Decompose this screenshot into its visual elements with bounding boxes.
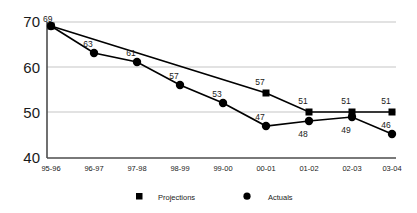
actuals-marker-98-99 [176,81,184,89]
data-label-actuals-98-99: 57 [169,71,179,81]
actuals-marker-02-03 [348,113,356,121]
projections-marker-01-02 [306,109,313,116]
x-tick-label-95-96: 95-96 [41,164,60,173]
actuals-marker-96-97 [90,49,98,57]
x-tick-label-97-98: 97-98 [127,164,146,173]
x-tick-label-96-97: 96-97 [84,164,103,173]
y-tick-label-60: 60 [23,59,40,76]
x-tick-label-03-04: 03-04 [382,164,401,173]
data-labels: 69 63 61 57 53 47 48 49 46 57 51 51 51 [43,14,391,139]
y-tick-label-70: 70 [23,13,40,30]
chart-legend: Projections Actuals [136,193,293,202]
actuals-marker-97-98 [133,58,141,66]
data-label-actuals-02-03: 49 [341,125,351,135]
legend-projections-square-icon [136,193,143,200]
data-label-actuals-00-01: 47 [255,112,265,122]
x-tick-label-99-00: 99-00 [213,164,232,173]
data-label-actuals-03-04: 46 [381,120,391,130]
data-label-projections-02-03: 51 [341,96,351,106]
data-label-start-69: 69 [43,14,53,24]
data-label-projections-03-04: 51 [381,96,391,106]
data-label-projections-00-01: 57 [255,77,265,87]
actuals-marker-99-00 [219,99,227,107]
data-label-actuals-01-02: 48 [298,129,308,139]
x-tick-label-01-02: 01-02 [299,164,318,173]
y-tick-label-50: 50 [23,104,40,121]
chart-canvas: 70 60 50 40 95-96 96-97 97-98 98-99 99-0… [0,0,417,213]
y-tick-label-40: 40 [23,149,40,166]
x-tick-label-02-03: 02-03 [342,164,361,173]
actuals-marker-01-02 [305,117,313,125]
actuals-marker-03-04 [388,130,396,138]
projections-marker-03-04 [389,109,396,116]
data-label-actuals-99-00: 53 [212,89,222,99]
data-label-projections-01-02: 51 [298,96,308,106]
legend-actuals-circle-icon [243,193,250,200]
x-tick-label-00-01: 00-01 [256,164,275,173]
legend-projections-label: Projections [158,193,195,202]
data-label-actuals-96-97: 63 [83,39,93,49]
legend-actuals-label: Actuals [268,193,293,202]
projections-marker-00-01 [263,90,270,97]
x-tick-label-98-99: 98-99 [170,164,189,173]
line-chart: 70 60 50 40 95-96 96-97 97-98 98-99 99-0… [0,0,417,213]
data-label-actuals-97-98: 61 [126,48,136,58]
actuals-marker-00-01 [262,122,270,130]
